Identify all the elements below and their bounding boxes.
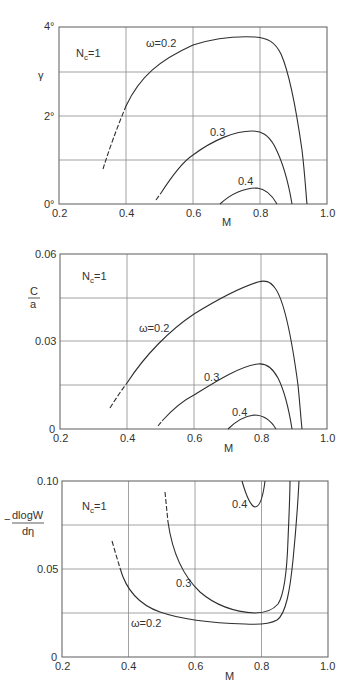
x-ticks: 0.2 0.4 0.6 0.8 1.0 xyxy=(53,432,335,444)
svg-text:1.0: 1.0 xyxy=(320,432,335,444)
series-w02-dashed xyxy=(103,106,126,169)
svg-text:0.8: 0.8 xyxy=(254,660,269,672)
series-label-w04: 0.4 xyxy=(232,498,247,510)
series-label-w02: ω=0.2 xyxy=(146,37,176,49)
y-tick-mid: 0.05 xyxy=(37,563,58,575)
y-tick-top: 0.06 xyxy=(35,248,56,260)
series-w03 xyxy=(162,364,292,429)
series-label-w04: 0.4 xyxy=(232,406,247,418)
series-label-w02: ω=0.2 xyxy=(139,322,169,334)
y-axis-label: − dlogW dη xyxy=(4,509,44,537)
y-tick-top: 4° xyxy=(44,20,55,32)
x-ticks: 0.2 0.4 0.6 0.8 1.0 xyxy=(55,660,335,672)
series-w03 xyxy=(168,481,290,613)
series-label-w03: 0.3 xyxy=(176,577,191,589)
svg-text:0.4: 0.4 xyxy=(120,432,135,444)
x-axis-label: M xyxy=(224,442,233,454)
svg-text:a: a xyxy=(30,298,37,310)
svg-text:0.4: 0.4 xyxy=(121,660,136,672)
series-w02 xyxy=(127,281,302,429)
svg-text:0.2: 0.2 xyxy=(53,432,68,444)
svg-text:0.6: 0.6 xyxy=(187,432,202,444)
series-label-w03: 0.3 xyxy=(204,371,219,383)
x-axis-label: M xyxy=(222,216,231,228)
x-axis-label: M xyxy=(225,670,234,682)
svg-text:1.0: 1.0 xyxy=(320,660,335,672)
series-w02-dashed xyxy=(110,383,127,408)
y-tick-top: 0.10 xyxy=(37,475,58,487)
series-w03-dashed xyxy=(165,492,168,522)
chart-gamma: Nc=1 ω=0.2 0.3 0.4 γ 4° 2° 0° 0.2 0.4 0.… xyxy=(38,20,335,228)
svg-text:0.8: 0.8 xyxy=(253,207,268,219)
series-w03-dashed xyxy=(156,193,161,200)
series-w02 xyxy=(120,481,299,624)
svg-text:0.4: 0.4 xyxy=(119,207,134,219)
series-w04 xyxy=(220,188,277,204)
svg-text:−: − xyxy=(4,513,10,525)
series-w03-dashed xyxy=(158,421,162,426)
svg-text:0.6: 0.6 xyxy=(186,207,201,219)
x-ticks: 0.2 0.4 0.6 0.8 1.0 xyxy=(52,207,335,219)
y-axis-label: C a xyxy=(28,285,40,310)
series-w03 xyxy=(161,131,292,204)
series-label-w02: ω=0.2 xyxy=(131,617,161,629)
svg-text:0.2: 0.2 xyxy=(55,660,70,672)
series-label-w03: 0.3 xyxy=(210,126,225,138)
y-tick-mid: 0.03 xyxy=(35,335,56,347)
svg-text:0.2: 0.2 xyxy=(52,207,67,219)
chart-c-over-a: Nc=1 ω=0.2 0.3 0.4 C a 0.06 0.03 0 0.2 0… xyxy=(28,248,335,454)
svg-text:0.6: 0.6 xyxy=(188,660,203,672)
svg-text:0.8: 0.8 xyxy=(254,432,269,444)
series-w02 xyxy=(126,37,307,204)
y-tick-mid: 2° xyxy=(44,110,55,122)
nc-annotation: Nc=1 xyxy=(82,500,107,515)
nc-annotation: Nc=1 xyxy=(82,270,107,285)
figure: Nc=1 ω=0.2 0.3 0.4 γ 4° 2° 0° 0.2 0.4 0.… xyxy=(0,0,352,687)
y-axis-label: γ xyxy=(38,69,44,81)
series-label-w04: 0.4 xyxy=(238,175,253,187)
svg-text:1.0: 1.0 xyxy=(320,207,335,219)
chart-dlogw: Nc=1 ω=0.2 0.3 0.4 − dlogW dη 0.10 0.05 … xyxy=(4,475,335,682)
svg-text:dlogW: dlogW xyxy=(12,509,44,521)
nc-annotation: Nc=1 xyxy=(76,47,101,62)
svg-text:dη: dη xyxy=(22,525,34,537)
series-w02-dashed xyxy=(112,541,120,568)
svg-text:C: C xyxy=(30,285,38,297)
